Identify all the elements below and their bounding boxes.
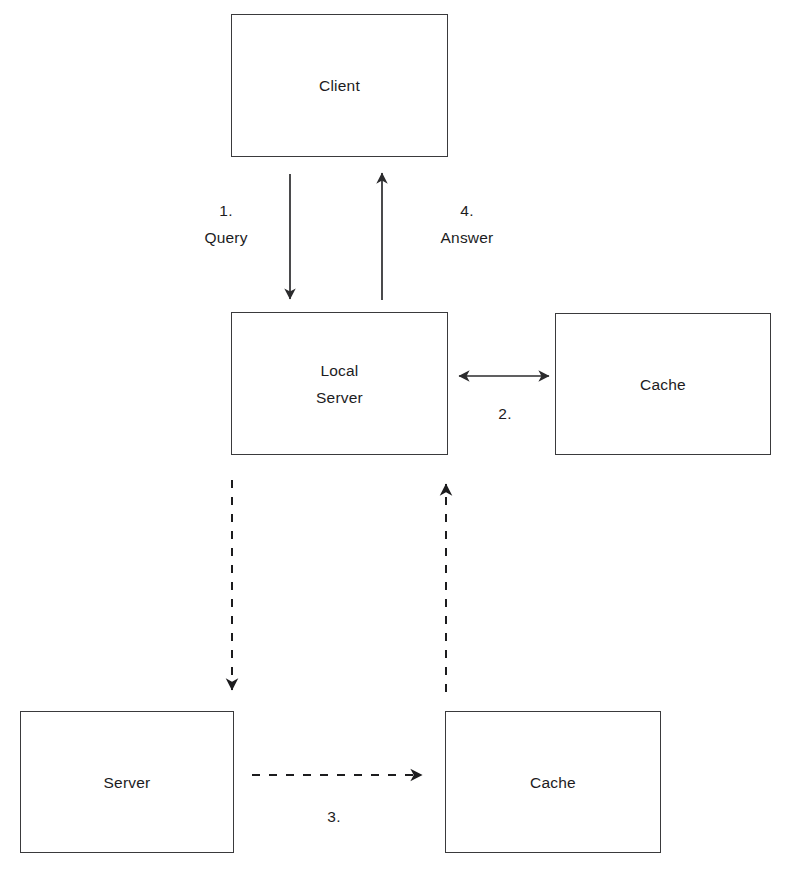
- edge-label-answer: 4. Answer: [441, 197, 494, 251]
- node-client[interactable]: Client: [231, 14, 448, 157]
- node-remote-cache[interactable]: Cache: [445, 711, 661, 853]
- node-local-server-label: Local Server: [316, 357, 363, 411]
- edge-label-step-3: 3.: [327, 803, 340, 830]
- node-client-label: Client: [319, 72, 360, 99]
- node-local-server[interactable]: Local Server: [231, 312, 448, 455]
- edge-label-step-2: 2.: [498, 400, 511, 427]
- node-remote-cache-label: Cache: [530, 769, 576, 796]
- node-local-cache[interactable]: Cache: [555, 313, 771, 455]
- diagram-canvas: Client Local Server Cache Server Cache 1…: [0, 0, 794, 881]
- node-server[interactable]: Server: [20, 711, 234, 853]
- node-server-label: Server: [104, 769, 151, 796]
- node-local-cache-label: Cache: [640, 371, 686, 398]
- edge-label-query: 1. Query: [204, 197, 247, 251]
